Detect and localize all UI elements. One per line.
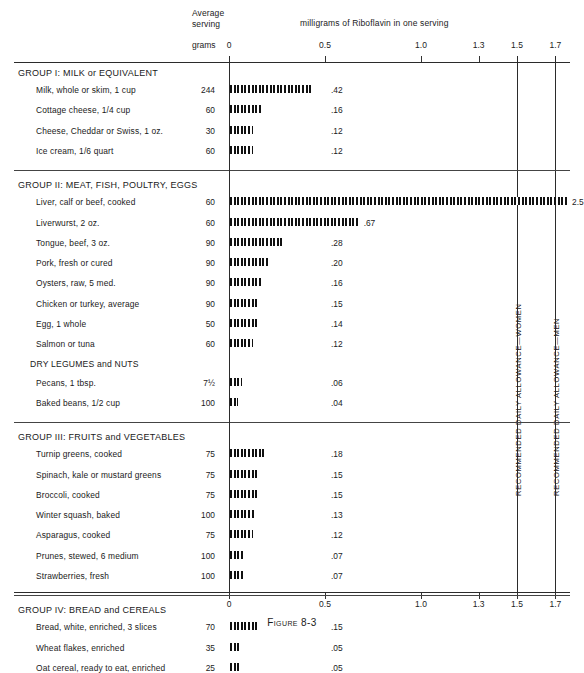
row-bar (230, 398, 238, 406)
group-separator-rule (14, 422, 570, 423)
row-value-label: .12 (331, 126, 343, 136)
row-value-label: .67 (364, 218, 376, 228)
row-bar (230, 299, 259, 307)
row-grams-value: 90 (181, 258, 215, 268)
row-value-label: .04 (331, 398, 343, 408)
row-value-label: .15 (331, 490, 343, 500)
row-value-label: .14 (331, 319, 343, 329)
row-bar (230, 146, 253, 154)
axis-tick-label: 1.7 (549, 40, 561, 50)
row-bar (230, 530, 253, 538)
row-bar (230, 470, 259, 478)
row-bar (230, 663, 240, 671)
row-value-label: 2.5 (572, 197, 584, 207)
row-bar (230, 571, 243, 579)
average-serving-header: Average serving (192, 8, 224, 29)
row-grams-value: 30 (181, 126, 215, 136)
row-bar (230, 490, 259, 498)
row-grams-value: 25 (181, 663, 215, 673)
row-bar (230, 278, 261, 286)
row-food-label: Cottage cheese, 1/4 cup (36, 105, 130, 115)
group-heading: GROUP III: FRUITS and VEGETABLES (18, 432, 185, 442)
row-food-label: Spinach, kale or mustard greens (36, 470, 161, 480)
row-food-label: Liver, calf or beef, cooked (36, 197, 136, 207)
row-grams-value: 50 (181, 319, 215, 329)
row-grams-value: 60 (181, 197, 215, 207)
row-grams-value: 60 (181, 146, 215, 156)
row-food-label: Baked beans, 1/2 cup (36, 398, 120, 408)
row-value-label: .13 (331, 510, 343, 520)
row-grams-value: 100 (181, 398, 215, 408)
row-value-label: .16 (331, 105, 343, 115)
axis-tick-label: 1.5 (511, 40, 523, 50)
row-grams-value: 100 (181, 571, 215, 581)
row-food-label: Ice cream, 1/6 quart (36, 146, 113, 156)
row-bar (230, 643, 240, 651)
row-value-label: .12 (331, 146, 343, 156)
grams-unit-label: grams (192, 40, 216, 50)
row-bar (230, 126, 253, 134)
figure-caption: Figure 8-3 (267, 617, 317, 628)
row-value-label: .12 (331, 530, 343, 540)
rda-reference-label: RECOMMENDED DAILY ALLOWANCE—MEN (552, 318, 561, 496)
row-bar (230, 449, 265, 457)
row-bar (230, 238, 284, 246)
group-separator-rule (14, 595, 570, 596)
row-food-label: Wheat flakes, enriched (36, 643, 125, 653)
group-subheading: DRY LEGUMES and NUTS (30, 359, 139, 369)
row-grams-value: 60 (181, 339, 215, 349)
row-food-label: Chicken or turkey, average (36, 299, 139, 309)
row-food-label: Turnip greens, cooked (36, 449, 122, 459)
row-food-label: Pork, fresh or cured (36, 258, 113, 268)
row-food-label: Tongue, beef, 3 oz. (36, 238, 110, 248)
row-bar (230, 319, 257, 327)
row-food-label: Oat cereal, ready to eat, enriched (36, 663, 165, 673)
row-value-label: .42 (331, 85, 343, 95)
axis-tick-label: 1.7 (549, 599, 561, 609)
axis-top-rule (14, 62, 570, 63)
axis-tick-label: 1.3 (473, 599, 485, 609)
axis-tick-label: 0.5 (319, 599, 331, 609)
row-food-label: Oysters, raw, 5 med. (36, 278, 116, 288)
row-value-label: .05 (331, 643, 343, 653)
row-bar (230, 105, 261, 113)
row-food-label: Pecans, 1 tbsp. (36, 378, 96, 388)
row-grams-value: 60 (181, 218, 215, 228)
row-food-label: Strawberries, fresh (36, 571, 109, 581)
zero-baseline (229, 56, 230, 592)
row-value-label: .06 (331, 378, 343, 388)
axis-tick-label: 0.5 (319, 40, 331, 50)
group-heading: GROUP I: MILK or EQUIVALENT (18, 68, 158, 78)
axis-tick-label: 1.5 (511, 599, 523, 609)
row-grams-value: 100 (181, 510, 215, 520)
row-food-label: Liverwurst, 2 oz. (36, 218, 100, 228)
row-grams-value: 90 (181, 299, 215, 309)
average-serving-line2: serving (192, 19, 220, 29)
row-grams-value: 90 (181, 278, 215, 288)
row-bar (230, 339, 253, 347)
row-value-label: .07 (331, 551, 343, 561)
row-grams-value: 35 (181, 643, 215, 653)
row-value-label: .15 (331, 470, 343, 480)
row-food-label: Milk, whole or skim, 1 cup (36, 85, 136, 95)
row-bar (230, 85, 311, 93)
row-food-label: Salmon or tuna (36, 339, 95, 349)
row-grams-value: 7½ (181, 378, 215, 388)
row-bar (230, 218, 359, 226)
axis-tick-label: 1.3 (473, 40, 485, 50)
row-value-label: .05 (331, 663, 343, 673)
row-food-label: Asparagus, cooked (36, 530, 110, 540)
row-grams-value: 75 (181, 490, 215, 500)
row-bar (230, 378, 242, 386)
row-food-label: Cheese, Cheddar or Swiss, 1 oz. (36, 126, 163, 136)
row-value-label: .15 (331, 299, 343, 309)
average-serving-line1: Average (192, 8, 224, 18)
row-value-label: .12 (331, 339, 343, 349)
row-food-label: Egg, 1 whole (36, 319, 86, 329)
row-value-label: .20 (331, 258, 343, 268)
row-food-label: Broccoli, cooked (36, 490, 100, 500)
row-grams-value: 75 (181, 470, 215, 480)
row-bar (230, 258, 268, 266)
row-grams-value: 60 (181, 105, 215, 115)
